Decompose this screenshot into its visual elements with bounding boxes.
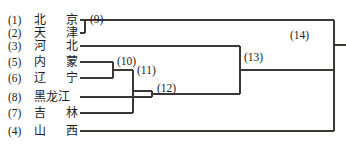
- leaf-label: 天 津: [34, 26, 78, 40]
- leaf-char: 北: [34, 13, 46, 27]
- leaf-char: 天: [34, 26, 46, 40]
- leaf-label: 辽 宁: [34, 71, 78, 85]
- leaf-char: 宁: [66, 71, 78, 85]
- leaf-char: 蒙: [66, 55, 78, 69]
- leaf-char: 西: [66, 124, 78, 138]
- leaf-index: (7): [8, 106, 32, 120]
- leaf-index: (6): [8, 71, 32, 85]
- leaf-char: 内: [34, 55, 46, 69]
- leaf-index: (2): [8, 26, 32, 40]
- node-label-13: (13): [244, 51, 263, 63]
- leaf-char: 河: [34, 39, 46, 53]
- leaf-label: 北 京: [34, 13, 78, 27]
- leaf-char: 辽: [34, 71, 46, 85]
- leaf-index: (8): [8, 90, 32, 104]
- leaf-label: 吉 林: [34, 106, 78, 120]
- dendrogram-figure: (1) 北 京 (2) 天 津 (3) 河 北 (5) 内 蒙 (6) 辽 宁: [0, 0, 346, 155]
- leaf-index: (4): [8, 124, 32, 138]
- leaf-char: 北: [66, 39, 78, 53]
- node-label-9: (9): [90, 13, 103, 25]
- leaf-label: 河 北: [34, 39, 78, 53]
- leaf-index: (5): [8, 55, 32, 69]
- leaf-char: 山: [34, 124, 46, 138]
- leaf-char: 京: [66, 13, 78, 27]
- node-label-10: (10): [117, 55, 136, 67]
- leaf-index: (1): [8, 13, 32, 27]
- node-label-12: (12): [157, 82, 176, 94]
- leaf-label: 山 西: [34, 124, 78, 138]
- node-label-14: (14): [290, 29, 309, 41]
- leaf-char: 津: [66, 26, 78, 40]
- leaf-char: 吉: [34, 106, 46, 120]
- leaf-index: (3): [8, 39, 32, 53]
- leaf-label: 黑龙江: [34, 90, 82, 104]
- node-label-11: (11): [137, 64, 156, 76]
- leaf-char: 林: [66, 106, 78, 120]
- leaf-label: 内 蒙: [34, 55, 78, 69]
